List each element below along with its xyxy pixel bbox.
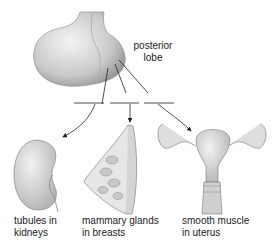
label-line: lobe <box>133 52 173 64</box>
kidney-label: tubules in kidneys <box>14 215 57 239</box>
label-line: tubules in <box>14 215 57 227</box>
uterus-label: smooth muscle in uterus <box>182 215 249 239</box>
breast-label: mammary glands in breasts <box>82 215 159 239</box>
kidney-illustration <box>14 140 58 212</box>
label-line: mammary glands <box>82 215 159 227</box>
label-line: smooth muscle <box>182 215 249 227</box>
label-line: kidneys <box>14 227 57 239</box>
posterior-lobe-label: posterior lobe <box>133 40 173 64</box>
label-line: posterior <box>133 40 173 52</box>
diagram: posterior lobe tubules in kidneys mammar… <box>0 0 277 244</box>
diagram-art <box>0 0 277 244</box>
breast-illustration <box>84 125 137 214</box>
label-line: in breasts <box>82 227 159 239</box>
uterus-illustration <box>158 124 266 214</box>
label-line: in uterus <box>182 227 249 239</box>
pituitary-gland <box>34 12 126 86</box>
